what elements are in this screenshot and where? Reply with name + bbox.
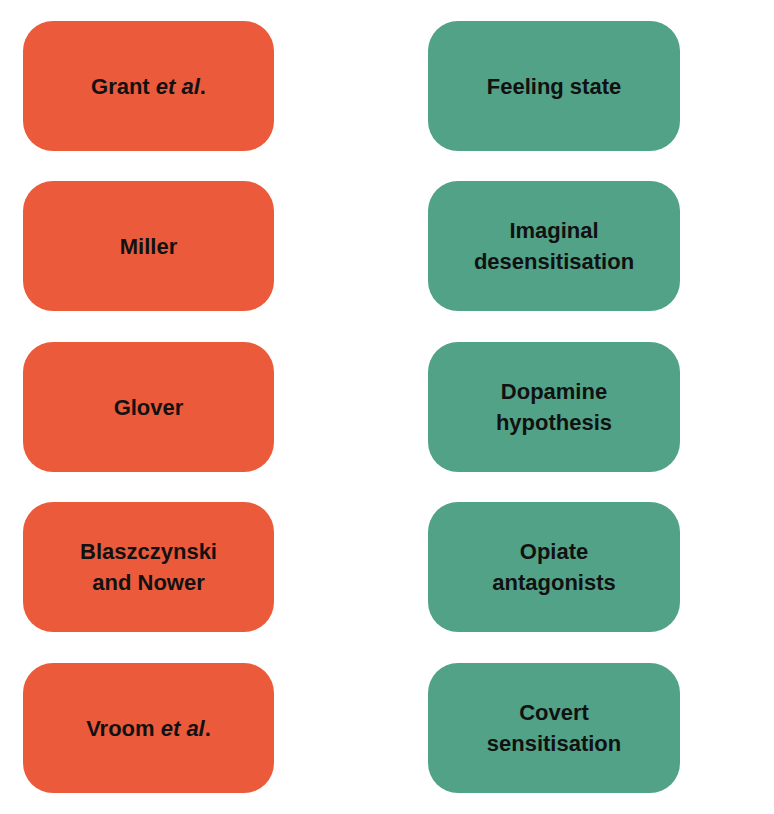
author-box-glover: Glover <box>23 342 274 472</box>
concept-box-feeling-state: Feeling state <box>428 21 680 151</box>
author-box-blaszczynski: Blaszczynski and Nower <box>23 502 274 632</box>
concept-box-opiate-antagonists: Opiate antagonists <box>428 502 680 632</box>
concept-box-dopamine-hypothesis: Dopamine hypothesis <box>428 342 680 472</box>
concept-box-imaginal-desensitisation: Imaginal desensitisation <box>428 181 680 311</box>
author-box-grant: Grant et al. <box>23 21 274 151</box>
author-box-miller: Miller <box>23 181 274 311</box>
concept-box-covert-sensitisation: Covert sensitisation <box>428 663 680 793</box>
author-box-vroom: Vroom et al. <box>23 663 274 793</box>
